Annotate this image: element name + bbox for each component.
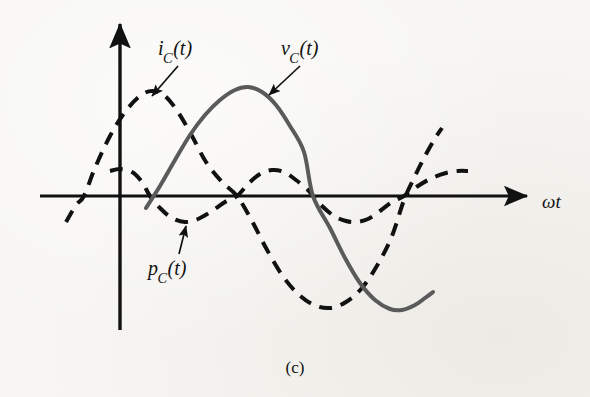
x-axis-label: ωt bbox=[542, 192, 561, 211]
label-p-c-subscript: C bbox=[157, 270, 167, 286]
callout-arrow-p-c bbox=[179, 226, 186, 254]
label-i-c-arg: (t) bbox=[173, 37, 192, 59]
curve-i-c bbox=[66, 91, 442, 308]
label-v-c-subscript: C bbox=[289, 50, 299, 66]
figure-container: iC(t) vC(t) pC(t) ωt (c) bbox=[0, 0, 590, 397]
figure-caption: (c) bbox=[0, 358, 590, 378]
series-label-p-c: pC(t) bbox=[148, 258, 187, 282]
axes-group bbox=[40, 24, 527, 330]
series-group bbox=[66, 87, 468, 310]
callout-arrow-v-c bbox=[269, 66, 300, 95]
label-v-c-arg: (t) bbox=[300, 37, 319, 59]
curve-v-c bbox=[146, 87, 433, 310]
label-i-c-subscript: C bbox=[163, 50, 173, 66]
series-label-i-c: iC(t) bbox=[158, 38, 192, 62]
series-label-v-c: vC(t) bbox=[281, 38, 318, 62]
label-p-c-arg: (t) bbox=[168, 257, 187, 279]
callout-arrow-i-c bbox=[152, 66, 178, 96]
